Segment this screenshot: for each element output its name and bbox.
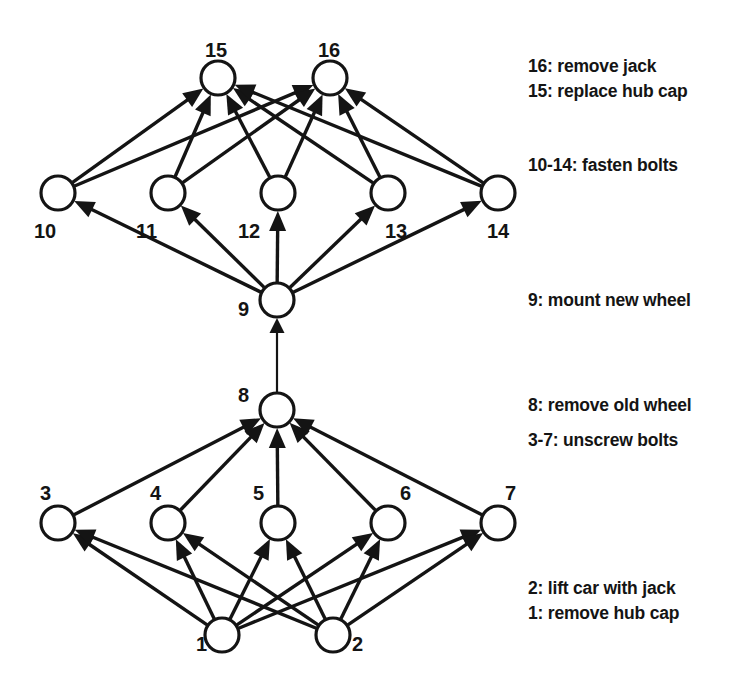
- node-8[interactable]: [260, 393, 294, 427]
- node-label-1: 1: [196, 633, 207, 655]
- node-label-9: 9: [238, 298, 249, 320]
- legend-2: 2: lift car with jack: [528, 578, 676, 599]
- node-label-11: 11: [136, 220, 157, 242]
- node-15[interactable]: [201, 61, 235, 95]
- arrowhead-5-to-8: [269, 428, 286, 448]
- node-1[interactable]: [205, 618, 239, 652]
- legend-8: 8: remove old wheel: [528, 395, 691, 416]
- edge-2-to-3: [88, 535, 316, 628]
- edge-6-to-8: [300, 433, 376, 510]
- node-label-2: 2: [352, 633, 363, 655]
- legend-15: 15: replace hub cap: [528, 81, 688, 102]
- node-label-14: 14: [487, 220, 510, 242]
- node-label-7: 7: [505, 482, 516, 504]
- node-12[interactable]: [261, 176, 295, 210]
- node-13[interactable]: [371, 176, 405, 210]
- node-10[interactable]: [41, 176, 75, 210]
- legend-3-7: 3-7: unscrew bolts: [528, 430, 678, 451]
- node-label-10: 10: [34, 220, 56, 242]
- node-6[interactable]: [371, 506, 405, 540]
- legend-9: 9: mount new wheel: [528, 290, 691, 311]
- node-label-15: 15: [205, 39, 227, 61]
- node-label-6: 6: [400, 482, 411, 504]
- edge-9-to-14: [293, 207, 469, 292]
- node-16[interactable]: [313, 61, 347, 95]
- node-label-4: 4: [150, 482, 162, 504]
- legend-16: 16: remove jack: [528, 56, 656, 77]
- node-labels-layer: 12345678910111213141516: [34, 39, 516, 655]
- legend-1: 1: remove hub cap: [528, 603, 679, 624]
- edge-10-to-15: [73, 97, 192, 183]
- edges-layer: [73, 85, 484, 629]
- node-label-5: 5: [253, 482, 264, 504]
- arrowhead-8-to-9: [270, 318, 285, 333]
- node-label-8: 8: [238, 384, 249, 406]
- node-14[interactable]: [481, 176, 515, 210]
- edge-1-to-7: [239, 535, 468, 628]
- node-2[interactable]: [316, 618, 350, 652]
- node-label-16: 16: [318, 39, 340, 61]
- node-7[interactable]: [481, 506, 515, 540]
- edge-9-to-12: [277, 225, 278, 282]
- edge-4-to-8: [181, 433, 255, 510]
- edge-9-to-10: [87, 207, 261, 292]
- legend-10-14: 10-14: fasten bolts: [528, 155, 678, 176]
- edge-5-to-8: [277, 442, 278, 505]
- node-11[interactable]: [151, 176, 185, 210]
- node-label-3: 3: [40, 482, 51, 504]
- node-label-13: 13: [385, 220, 407, 242]
- node-5[interactable]: [261, 506, 295, 540]
- edge-7-to-8: [306, 425, 482, 515]
- arrowhead-10-to-15: [182, 89, 203, 108]
- node-4[interactable]: [151, 506, 185, 540]
- node-3[interactable]: [41, 506, 75, 540]
- node-label-12: 12: [238, 220, 260, 242]
- edge-14-to-15: [248, 90, 481, 186]
- node-9[interactable]: [260, 283, 294, 317]
- arrowhead-9-to-12: [269, 211, 286, 231]
